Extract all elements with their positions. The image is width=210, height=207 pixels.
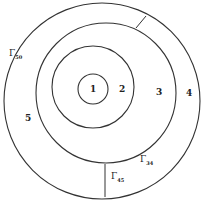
region-label-5: 5 [25, 113, 31, 123]
boundary-label-gamma-50: Γ50 [9, 48, 23, 60]
region-label-2: 2 [119, 84, 125, 94]
region-label-1: 1 [90, 84, 96, 94]
divider-top-right [136, 16, 146, 28]
boundary-label-gamma-34: Γ34 [140, 154, 154, 166]
region-label-4: 4 [186, 88, 192, 98]
region-label-3: 3 [156, 87, 162, 97]
boundary-label-gamma-45: Γ45 [111, 171, 125, 183]
concentric-region-diagram: 1 2 3 4 5 Γ50 Γ34 Γ45 [0, 0, 210, 207]
region-3-boundary [36, 23, 176, 163]
